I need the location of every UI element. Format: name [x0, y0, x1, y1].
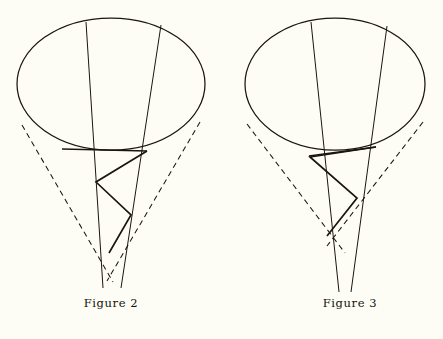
base-chord-line: [62, 149, 147, 151]
cone-generator-left-line: [86, 22, 103, 288]
cone-generator-right-line: [121, 25, 161, 288]
figure-3-panel: Figure 3: [221, 0, 443, 339]
figure-3-caption: Figure 3: [239, 296, 443, 310]
figure-3-drawing: [221, 0, 443, 300]
zigzag-geodesic-polyline: [310, 147, 376, 236]
figure-2-panel: Figure 2: [0, 0, 222, 339]
cone-generator-right-line: [351, 26, 387, 292]
dashed-tangent-right-line: [107, 122, 200, 281]
figure-page: Figure 2 Figure 3: [0, 0, 443, 339]
cone-base-ellipse: [17, 18, 205, 150]
figure-2-drawing: [0, 0, 222, 300]
cone-base-ellipse: [245, 18, 425, 150]
figure-2-caption: Figure 2: [0, 296, 222, 310]
